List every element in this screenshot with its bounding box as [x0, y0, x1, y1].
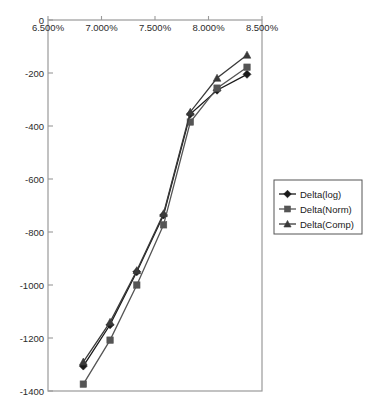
legend-label: Delta(log)	[300, 189, 341, 200]
y-tick-label: -1200	[20, 333, 44, 344]
legend-label: Delta(Comp)	[300, 219, 354, 230]
square-marker	[107, 337, 113, 343]
square-marker	[80, 381, 86, 387]
line-chart: 6.500%7.000%7.500%8.000%8.500%0-200-400-…	[0, 0, 377, 418]
y-tick-label: -200	[25, 68, 44, 79]
y-tick-label: -400	[25, 121, 44, 132]
square-marker	[134, 282, 140, 288]
x-tick-label: 8.000%	[192, 22, 225, 33]
chart-container: 6.500%7.000%7.500%8.000%8.500%0-200-400-…	[0, 0, 377, 418]
x-tick-label: 8.500%	[246, 22, 279, 33]
x-tick-label: 7.000%	[85, 22, 118, 33]
y-tick-label: -800	[25, 227, 44, 238]
square-marker	[285, 206, 291, 212]
y-tick-label: -1400	[20, 386, 44, 397]
y-tick-label: 0	[39, 15, 44, 26]
legend: Delta(log)Delta(Norm)Delta(Comp)	[274, 180, 362, 234]
plot-area	[48, 20, 262, 391]
square-marker	[244, 64, 250, 70]
y-tick-label: -600	[25, 174, 44, 185]
y-tick-label: -1000	[20, 280, 44, 291]
square-marker	[214, 85, 220, 91]
x-tick-label: 6.500%	[32, 22, 65, 33]
square-marker	[160, 222, 166, 228]
x-tick-label: 7.500%	[139, 22, 172, 33]
legend-label: Delta(Norm)	[300, 204, 352, 215]
